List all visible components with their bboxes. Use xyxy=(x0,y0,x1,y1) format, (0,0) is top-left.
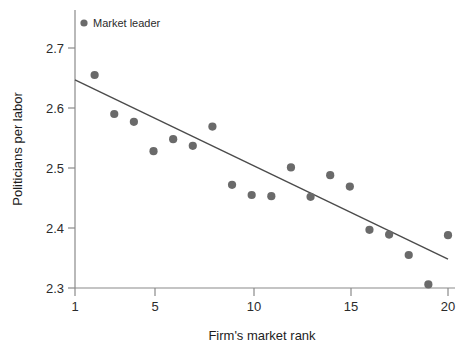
scatter-point xyxy=(130,118,138,126)
x-axis-tick-labels: 1 5 10 15 20 xyxy=(71,299,455,314)
legend-marker-icon xyxy=(80,19,87,26)
scatter-point xyxy=(346,183,354,191)
scatter-point xyxy=(385,231,393,239)
x-tick-label-0: 1 xyxy=(71,299,78,314)
x-axis-ticks xyxy=(75,288,448,296)
y-axis-tick-labels: 2.7 2.6 2.5 2.4 2.3 xyxy=(46,41,64,296)
x-tick-label-4: 20 xyxy=(441,299,455,314)
y-axis-ticks xyxy=(68,48,75,288)
scatter-point xyxy=(326,171,334,179)
x-tick-label-2: 10 xyxy=(247,299,261,314)
scatter-point xyxy=(287,163,295,171)
scatter-point xyxy=(149,147,157,155)
x-axis-title: Firm's market rank xyxy=(208,328,316,343)
y-tick-label-1: 2.4 xyxy=(46,221,64,236)
x-tick-label-1: 5 xyxy=(151,299,158,314)
scatter-point xyxy=(306,193,314,201)
scatter-point xyxy=(110,110,118,118)
y-axis-title: Politicians per labor xyxy=(10,92,25,206)
y-tick-label-3: 2.6 xyxy=(46,101,64,116)
scatter-point xyxy=(248,191,256,199)
y-tick-label-0: 2.3 xyxy=(46,281,64,296)
scatter-point xyxy=(365,226,373,234)
scatter-point xyxy=(169,135,177,143)
scatter-point xyxy=(444,231,452,239)
scatter-point xyxy=(405,251,413,259)
scatter-point xyxy=(189,142,197,150)
scatter-plot-canvas: 2.7 2.6 2.5 2.4 2.3 1 5 10 15 20 Firm's … xyxy=(0,0,471,351)
scatter-point xyxy=(208,123,216,131)
legend-label-market-leader: Market leader xyxy=(93,17,161,29)
scatter-point xyxy=(91,71,99,79)
legend: Market leader xyxy=(80,17,160,29)
chart-figure: 2.7 2.6 2.5 2.4 2.3 1 5 10 15 20 Firm's … xyxy=(0,0,471,351)
scatter-marker-group xyxy=(91,71,453,289)
y-tick-label-4: 2.7 xyxy=(46,41,64,56)
y-tick-label-2: 2.5 xyxy=(46,161,64,176)
x-tick-label-3: 15 xyxy=(344,299,358,314)
scatter-point xyxy=(228,181,236,189)
scatter-point xyxy=(424,280,432,288)
scatter-point xyxy=(267,192,275,200)
axis-spines xyxy=(75,10,455,288)
